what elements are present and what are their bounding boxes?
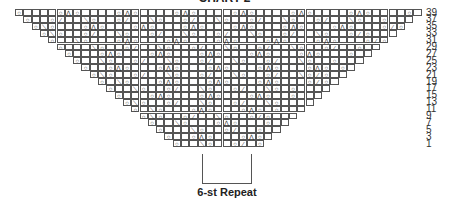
chart-cell: ○	[81, 37, 89, 44]
chart-cell	[264, 9, 272, 16]
chart-cell	[314, 85, 322, 92]
chart-cell	[380, 30, 388, 37]
chart-cell: ○	[32, 23, 40, 30]
chart-cell	[198, 37, 206, 44]
chart-cell	[289, 64, 297, 71]
chart-cell	[264, 16, 272, 23]
chart-cell	[389, 30, 397, 37]
chart-cell	[189, 50, 197, 57]
chart-cell	[57, 23, 65, 30]
chart-cell: ⟍	[115, 30, 123, 37]
chart-cell: ○	[106, 57, 114, 64]
chart-cell	[223, 106, 231, 113]
chart-cell	[289, 113, 297, 120]
chart-cell	[372, 16, 380, 23]
chart-cell: ○	[48, 23, 56, 30]
chart-cell: ○	[297, 50, 305, 57]
chart-cell	[189, 99, 197, 106]
chart-cell	[272, 30, 280, 37]
chart-cell: ○	[40, 30, 48, 37]
chart-cell	[90, 57, 98, 64]
chart-cell	[181, 57, 189, 64]
chart-cell: ⋀	[264, 64, 272, 71]
chart-cell	[297, 16, 305, 23]
chart-cell: ○	[173, 71, 181, 78]
chart-cell	[322, 23, 330, 30]
chart-cell: ○	[306, 78, 314, 85]
chart-cell: ○	[189, 44, 197, 51]
chart-cell	[364, 44, 372, 51]
chart-cell	[140, 44, 148, 51]
chart-cell: ○	[189, 106, 197, 113]
chart-cell: ⁄	[90, 30, 98, 37]
chart-cell	[330, 50, 338, 57]
chart-cell	[40, 16, 48, 23]
chart-cell	[281, 119, 289, 126]
chart-cell	[297, 64, 305, 71]
chart-cell	[140, 78, 148, 85]
chart-cell: ○	[322, 78, 330, 85]
chart-cell: ○	[281, 30, 289, 37]
chart-cell: ⟍	[156, 44, 164, 51]
chart-cell: ○	[181, 23, 189, 30]
chart-cell: ⁄	[173, 99, 181, 106]
chart-cell	[355, 57, 363, 64]
chart-cell: ⟍	[214, 16, 222, 23]
chart-cell: ○	[123, 64, 131, 71]
chart-cell	[181, 71, 189, 78]
chart-cell	[405, 16, 413, 23]
chart-cell: ⋀	[156, 92, 164, 99]
chart-cell	[372, 9, 380, 16]
chart-cell	[198, 78, 206, 85]
chart-cell: ⁄	[206, 71, 214, 78]
chart-cell	[223, 133, 231, 140]
chart-cell	[115, 85, 123, 92]
chart-cell: ○	[198, 50, 206, 57]
chart-cell: ○	[206, 64, 214, 71]
chart-cell	[156, 23, 164, 30]
chart-cell	[140, 30, 148, 37]
chart-cell: ⁄	[272, 71, 280, 78]
chart-cell: ○	[90, 71, 98, 78]
chart-cell	[98, 64, 106, 71]
chart-cell: ○	[231, 140, 239, 147]
chart-cell	[214, 9, 222, 16]
chart-cell: ⟍	[297, 57, 305, 64]
chart-cell: ○	[272, 85, 280, 92]
chart-cell: ○	[347, 50, 355, 57]
chart-cell: ○	[223, 126, 231, 133]
chart-cell	[339, 50, 347, 57]
chart-title: CHART 2	[0, 0, 449, 5]
chart-cell: ○	[380, 37, 388, 44]
chart-cell	[198, 9, 206, 16]
chart-cell: ⁄	[289, 30, 297, 37]
chart-cell	[198, 16, 206, 23]
chart-cell: ⋀	[256, 50, 264, 57]
chart-cell: ○	[65, 50, 73, 57]
chart-cell	[247, 119, 255, 126]
chart-cell	[214, 85, 222, 92]
chart-cell	[81, 50, 89, 57]
chart-cell	[206, 37, 214, 44]
chart-cell	[347, 37, 355, 44]
chart-cell	[131, 30, 139, 37]
chart-cell	[173, 106, 181, 113]
chart-cell: ⁄	[314, 78, 322, 85]
chart-cell	[231, 64, 239, 71]
chart-cell: ○	[239, 71, 247, 78]
chart-cell: ⋀	[206, 50, 214, 57]
chart-cell	[148, 9, 156, 16]
chart-cell: ○	[57, 30, 65, 37]
chart-cell	[272, 16, 280, 23]
chart-cell: ○	[405, 9, 413, 16]
chart-cell: ⟍	[264, 99, 272, 106]
chart-cell: ○	[380, 16, 388, 23]
chart-cell	[322, 57, 330, 64]
chart-cell	[231, 78, 239, 85]
chart-cell: ⋀	[339, 23, 347, 30]
chart-cell	[289, 99, 297, 106]
chart-cell	[214, 99, 222, 106]
chart-cell: ○	[156, 16, 164, 23]
chart-cell: ○	[231, 99, 239, 106]
chart-cell: ○	[164, 85, 172, 92]
